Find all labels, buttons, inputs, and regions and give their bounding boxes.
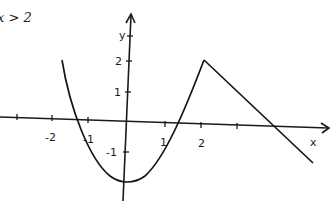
x-tick-label-2: 2 — [198, 137, 205, 150]
y-tick-label-neg1: -1 — [106, 146, 117, 159]
y-tick-label-1: 1 — [114, 86, 121, 99]
x-tick-label-neg2: -2 — [45, 131, 56, 144]
condition-text: x > 2 — [0, 10, 32, 25]
y-tick-label-2: 2 — [115, 55, 122, 68]
y-axis: y 2 1 -1 — [106, 14, 135, 201]
linear-segment — [204, 60, 313, 163]
x-axis-label: x — [310, 136, 317, 149]
function-graph: x > 2 -2 -1 1 2 x y 2 1 -1 — [0, 0, 333, 202]
y-axis-label: y — [119, 29, 126, 42]
